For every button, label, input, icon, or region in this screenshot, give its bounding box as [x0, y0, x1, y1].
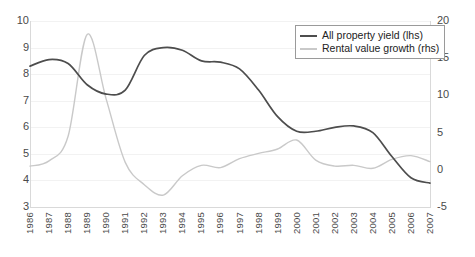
y-axis-left-tick-label: 4 [7, 174, 29, 185]
chart-container: 345678910 -505101520 1986198719881989199… [0, 0, 475, 257]
legend-item-all-property-yield: All property yield (lhs) [300, 29, 439, 42]
y-axis-left-tick-label: 5 [7, 148, 29, 159]
x-axis-tick-label: 1987 [44, 212, 54, 234]
x-axis-tick-label: 1992 [139, 212, 149, 234]
y-axis-left-line [30, 21, 31, 208]
x-axis-tick-label: 2000 [292, 212, 302, 234]
gridline [30, 74, 430, 75]
gridline [30, 154, 430, 155]
gridline [30, 21, 430, 22]
legend-label: Rental value growth (rhs) [322, 42, 439, 55]
y-axis-right-tick-label: 0 [437, 164, 461, 175]
x-axis-tick-label: 2002 [330, 212, 340, 234]
gridline [30, 180, 430, 181]
x-axis-line [30, 207, 431, 208]
y-axis-left-tick-label: 7 [7, 95, 29, 106]
chart-legend: All property yield (lhs) Rental value gr… [295, 25, 445, 59]
x-axis-tick-label: 1993 [158, 212, 168, 234]
x-axis-tick-label: 1999 [273, 212, 283, 234]
x-axis-tick-label: 1989 [82, 212, 92, 234]
x-axis-tick-label: 1998 [254, 212, 264, 234]
gridline [30, 127, 430, 128]
x-axis-tick-label: 1990 [101, 212, 111, 234]
x-axis-tick-label: 1994 [177, 212, 187, 234]
legend-label: All property yield (lhs) [322, 29, 423, 42]
x-axis-tick-label: 1991 [120, 212, 130, 234]
y-axis-left-tick-label: 3 [7, 201, 29, 212]
x-axis-tick-label: 1986 [25, 212, 35, 234]
y-axis-right-tick-label: 5 [437, 127, 461, 138]
gridline [30, 101, 430, 102]
x-axis-tick-label: 2003 [349, 212, 359, 234]
x-axis-tick-label: 2006 [406, 212, 416, 234]
x-axis-tick-label: 1995 [196, 212, 206, 234]
x-axis-tick-label: 2001 [311, 212, 321, 234]
legend-swatch-icon [300, 48, 317, 50]
x-axis-tick-label: 1988 [63, 212, 73, 234]
x-axis-tick-label: 2005 [387, 212, 397, 234]
y-axis-left-tick-label: 10 [7, 15, 29, 26]
y-axis-left-tick-label: 8 [7, 68, 29, 79]
x-axis-tick-label: 2004 [368, 212, 378, 234]
y-axis-left-tick-label: 6 [7, 121, 29, 132]
x-axis-tick-label: 1996 [215, 212, 225, 234]
y-axis-right-tick-label: -5 [437, 201, 461, 212]
x-axis-tick-label: 1997 [235, 212, 245, 234]
legend-swatch-icon [300, 35, 317, 37]
y-axis-right-tick-label: 10 [437, 89, 461, 100]
y-axis-left-tick-label: 9 [7, 42, 29, 53]
legend-item-rental-value-growth: Rental value growth (rhs) [300, 42, 439, 55]
x-axis-tick-label: 2007 [425, 212, 435, 234]
